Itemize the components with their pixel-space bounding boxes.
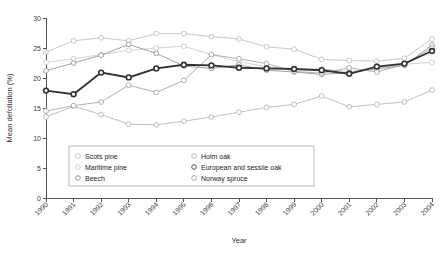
data-point [44,60,49,65]
data-point [402,100,407,105]
y-tick-label: 10 [33,135,41,142]
data-point [154,122,159,127]
data-point [126,48,131,53]
data-point [292,47,297,52]
data-point [237,110,242,115]
data-point [347,58,352,63]
x-axis-title: Year [231,236,247,245]
data-point [181,62,186,67]
data-point [44,109,49,114]
x-tick-label: 2002 [364,201,380,217]
x-tick-label: 2000 [309,201,325,217]
x-tick-label: 1994 [144,201,160,217]
data-point [237,65,242,70]
data-point [402,61,407,66]
legend-label: Norway spruce [201,175,248,183]
x-tick-label: 1998 [254,201,270,217]
data-point [126,83,131,88]
legend-marker [192,176,197,181]
legend-label: Maritime pine [85,164,127,172]
data-point [99,112,104,117]
legend-marker [76,165,81,170]
data-point [154,46,159,51]
data-point [319,94,324,99]
data-point [237,37,242,42]
data-point [347,65,352,70]
data-point [181,44,186,49]
data-point [181,119,186,124]
data-point [319,57,324,62]
data-point [71,103,76,108]
data-point [264,105,269,110]
x-axis: 1990199119921993199419951996199719981999… [33,198,435,217]
x-tick-label: 1991 [61,201,77,217]
legend-marker [76,176,81,181]
series-layer [44,31,435,127]
data-point [430,37,435,42]
x-tick-label: 1993 [116,201,132,217]
x-tick-label: 2001 [337,201,353,217]
data-point [44,68,49,73]
data-point [209,115,214,120]
data-point [44,115,49,120]
x-tick-label: 1997 [226,201,242,217]
y-tick-label: 20 [33,75,41,82]
data-point [209,52,214,57]
data-point [154,66,159,71]
data-point [154,51,159,56]
data-point [99,53,104,58]
data-point [181,31,186,36]
y-axis: 051015202530 [33,15,46,202]
x-tick-label: 2003 [392,201,408,217]
data-point [181,78,186,83]
data-point [99,70,104,75]
data-point [430,60,435,65]
data-point [209,63,214,68]
data-point [430,49,435,54]
data-point [264,44,269,49]
data-point [347,71,352,76]
x-tick-label: 1990 [33,201,49,217]
data-point [154,31,159,36]
data-point [44,88,49,93]
data-point [99,35,104,40]
data-point [99,100,104,105]
series-holm-oak [44,88,435,128]
data-point [71,61,76,66]
legend-label: Scots pine [85,153,118,161]
y-tick-label: 15 [33,105,41,112]
x-tick-label: 1999 [281,201,297,217]
y-axis-title: Mean defoliation (%) [5,73,14,142]
data-point [44,50,49,55]
data-point [347,104,352,109]
data-point [374,102,379,107]
legend-label: Holm oak [201,153,231,160]
data-point [292,67,297,72]
y-tick-label: 25 [33,45,41,52]
legend-marker [192,165,197,170]
x-tick-label: 1995 [171,201,187,217]
data-point [71,38,76,43]
data-point [264,66,269,71]
y-tick-label: 0 [37,195,41,202]
data-point [292,102,297,107]
data-point [126,42,131,47]
legend-marker [76,154,81,159]
legend-label: European and sessile oak [201,164,282,172]
data-point [319,68,324,73]
data-point [154,90,159,95]
x-tick-label: 1996 [199,201,215,217]
data-point [374,59,379,64]
data-point [237,56,242,61]
x-tick-label: 1992 [88,201,104,217]
data-point [71,92,76,97]
legend-marker [192,154,197,159]
data-point [430,88,435,93]
chart-legend: Scots pineHolm oakMaritime pineEuropean … [69,146,314,186]
defoliation-line-chart: 051015202530 199019911992199319941995199… [0,0,447,257]
y-tick-label: 5 [37,165,41,172]
data-point [126,122,131,127]
data-point [374,70,379,75]
chart-canvas: 051015202530 199019911992199319941995199… [0,0,447,257]
x-tick-label: 2004 [419,201,435,217]
